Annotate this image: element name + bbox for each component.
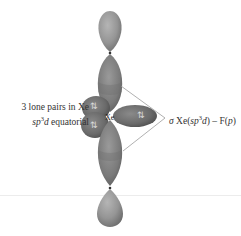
- lone-pair-lobe-right: [113, 105, 157, 127]
- f-bottom-outer-lobe: [97, 189, 123, 227]
- sigma-bond-label: σ Xe(sp3d) – F(p): [169, 112, 236, 127]
- orbital-diagram: ⇅ ⇅ ⇅ Xe 3 lone pairs in Xe sp3d equator…: [0, 0, 241, 236]
- lone-pair-arrow-icon: ⇅: [90, 120, 98, 130]
- lone-pairs-label-line2: sp3d equatorial: [19, 113, 89, 128]
- lone-pairs-label: 3 lone pairs in Xe sp3d equatorial: [19, 102, 89, 128]
- lone-pair-arrow-icon: ⇅: [137, 110, 145, 120]
- central-atom-label: Xe: [105, 113, 114, 122]
- lone-pairs-label-line1: 3 lone pairs in Xe: [19, 102, 89, 113]
- lone-pair-arrow-icon: ⇅: [90, 101, 98, 111]
- f-top-outer-lobe: [98, 11, 121, 52]
